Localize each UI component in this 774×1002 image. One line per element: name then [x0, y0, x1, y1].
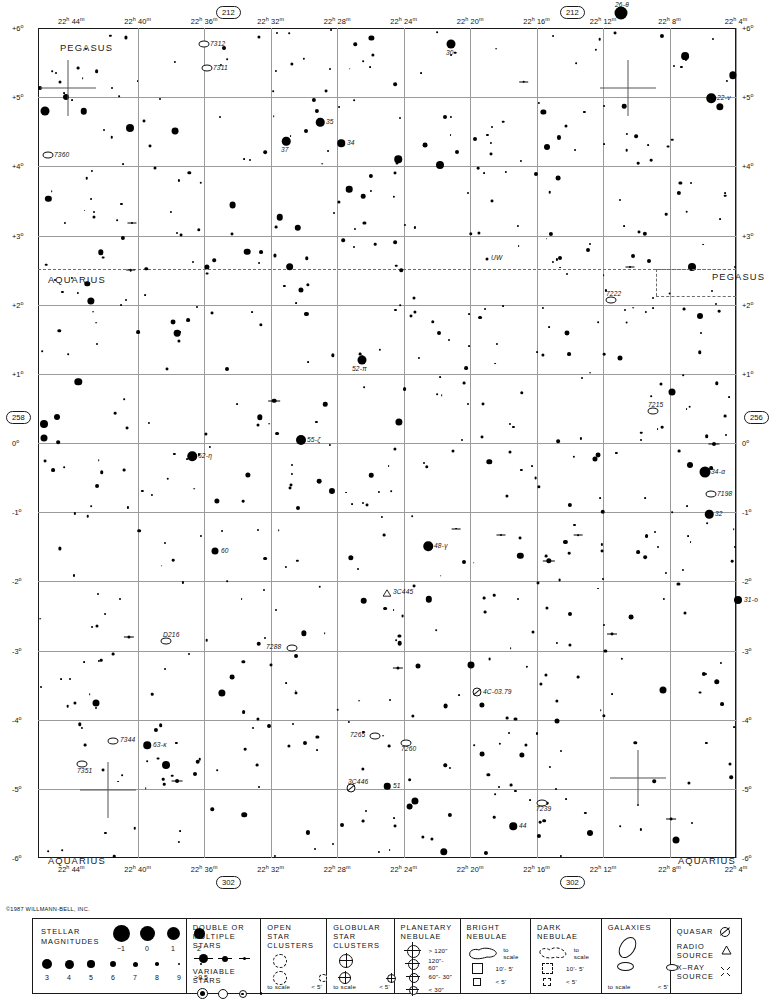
globular-symbol-mid — [339, 972, 349, 982]
star-marker — [647, 145, 649, 147]
star-marker — [324, 90, 327, 93]
legend-stellar-magnitudes: STELLAR MAGNITUDES −1012 3456789>9.5 — [33, 919, 187, 993]
star-marker — [336, 708, 339, 711]
quasar-symbol[interactable] — [473, 688, 482, 697]
ra-tick-label: 22h 36m — [191, 16, 218, 26]
chart-number-right[interactable]: 256 — [744, 411, 769, 424]
star-marker — [437, 331, 441, 335]
dark-nebula-row-scale: to scale — [537, 944, 596, 961]
planetary-nebula-size-label: < 30" — [429, 986, 444, 993]
star-marker — [324, 633, 326, 635]
legend-double-variable-stars: DOUBLE OR MULTIPLE STARS VARIABLE STARS — [187, 919, 261, 993]
star-marker — [634, 134, 638, 138]
galaxy-symbol[interactable] — [202, 65, 213, 72]
galaxy-symbol[interactable] — [108, 738, 119, 745]
star-marker-34 — [337, 139, 345, 147]
star-marker — [62, 850, 64, 852]
star-marker — [480, 435, 483, 438]
star-marker — [90, 505, 92, 507]
galaxy-symbol[interactable] — [199, 41, 210, 48]
star-marker — [458, 694, 460, 696]
galaxy-symbol[interactable] — [706, 491, 717, 498]
star-marker — [148, 144, 151, 147]
galaxy-symbol[interactable] — [287, 645, 298, 652]
sky-map-plate[interactable]: 7312731173603026-θ22-ν353734UW7222721552… — [38, 28, 736, 858]
magnitude-value: 8 — [155, 974, 159, 981]
planetary-nebula-icon — [405, 983, 421, 996]
star-marker — [546, 238, 548, 240]
star-marker — [230, 233, 233, 236]
star-marker — [554, 719, 559, 724]
star-marker — [100, 659, 103, 662]
star-marker — [256, 641, 261, 646]
chart-number-bottom-right[interactable]: 302 — [560, 876, 585, 889]
star-marker — [172, 128, 179, 135]
star-marker — [619, 825, 621, 827]
star-marker — [463, 382, 466, 385]
star-marker — [468, 313, 470, 315]
globular-symbol-small — [387, 974, 394, 981]
star-marker — [556, 439, 560, 443]
star-marker — [98, 460, 100, 462]
star-marker — [45, 263, 48, 266]
star-marker — [362, 60, 364, 62]
object-label: 22-ν — [717, 94, 731, 101]
variable-star-symbol[interactable] — [486, 258, 489, 261]
star-marker — [382, 735, 384, 737]
galaxy-symbol[interactable] — [161, 638, 172, 645]
star-marker — [395, 265, 398, 268]
star-marker — [600, 497, 602, 499]
object-label: 7288 — [266, 643, 281, 650]
galaxy-symbol[interactable] — [606, 297, 617, 304]
legend-title-bright-2: NEBULAE — [467, 932, 526, 941]
star-marker — [346, 186, 353, 193]
star-marker — [96, 322, 98, 324]
chart-number-bottom-left[interactable]: 302 — [216, 876, 241, 889]
ra-tick-label: 22h 40m — [124, 16, 151, 26]
bright-nebula-scale-label: to scale — [503, 946, 525, 960]
star-marker — [167, 477, 170, 480]
chart-number-left[interactable]: 258 — [6, 411, 31, 424]
reticle-vertical — [68, 60, 69, 116]
legend-title-galaxies: GALAXIES — [608, 923, 665, 932]
star-marker — [134, 827, 137, 830]
star-marker — [272, 90, 274, 92]
star-marker — [437, 31, 439, 33]
star-marker — [467, 192, 469, 194]
star-marker — [321, 163, 323, 165]
double-star-symbols — [193, 952, 255, 965]
star-marker — [484, 610, 487, 613]
star-marker — [54, 414, 60, 420]
star-marker — [112, 653, 115, 656]
star-marker — [657, 546, 659, 548]
object-label: 7198 — [717, 490, 732, 497]
star-marker — [495, 48, 497, 50]
ra-tick-label: 22h 20m — [457, 864, 484, 874]
object-label: 4C-03.79 — [483, 688, 512, 695]
star-marker — [82, 77, 84, 79]
star-marker — [93, 700, 100, 707]
star-marker — [687, 535, 689, 537]
galaxy-symbol[interactable] — [370, 733, 381, 740]
star-marker — [330, 29, 332, 31]
star-marker — [55, 72, 57, 74]
star-marker — [483, 172, 485, 174]
legend-other-sources: QUASAR RADIO SOURCE X–RAY SOURCE — [671, 919, 741, 993]
radio-source-symbol[interactable] — [383, 583, 392, 601]
boundary-segment — [656, 269, 657, 297]
legend-title-planetary-1: PLANETARY — [401, 923, 455, 932]
chart-number-top-right[interactable]: 212 — [560, 6, 585, 19]
double-star-bar — [708, 443, 719, 444]
star-marker — [100, 471, 104, 475]
star-marker — [586, 248, 590, 252]
star-marker — [193, 772, 197, 776]
star-marker — [295, 690, 297, 692]
object-label: 30 — [446, 49, 454, 56]
galaxy-symbol[interactable] — [43, 152, 54, 159]
star-marker — [95, 69, 99, 73]
ra-tick-label: 22h 12m — [590, 16, 617, 26]
dec-tick-label-right: -1o — [742, 507, 752, 517]
star-marker — [509, 450, 512, 453]
galaxy-symbol[interactable] — [648, 408, 659, 415]
chart-number-top-left[interactable]: 212 — [216, 6, 241, 19]
